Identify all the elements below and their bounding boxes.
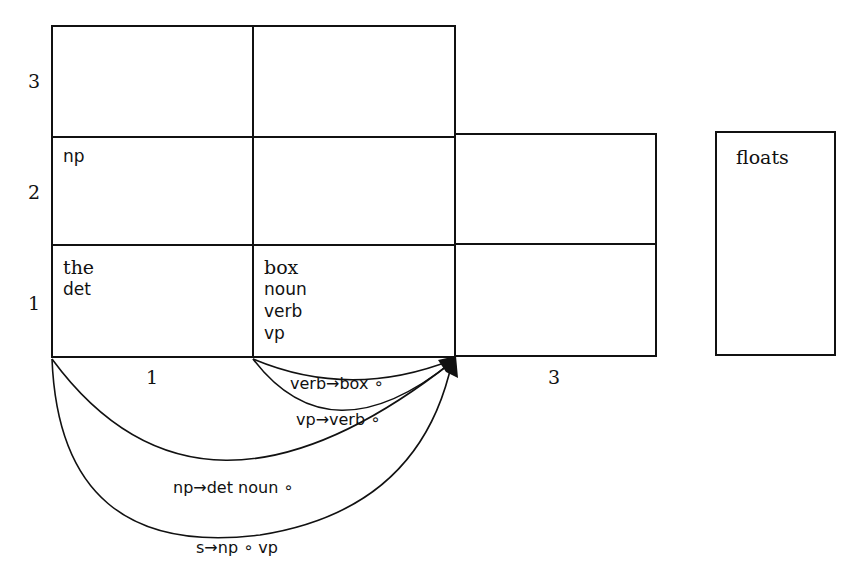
edge-arc-np-det-noun xyxy=(52,359,452,460)
cell-r1c1: the det xyxy=(63,256,94,300)
col-label-3: 3 xyxy=(548,366,560,388)
chart-diagram xyxy=(0,0,863,587)
category-det: det xyxy=(63,278,94,300)
edge-label-np-det-noun: np→det noun ∘ xyxy=(173,478,293,497)
category-verb: verb xyxy=(264,300,307,322)
col-label-1: 1 xyxy=(146,366,158,388)
cell-r1c2: box noun verb vp xyxy=(264,256,307,344)
edge-label-vp-verb: vp→verb ∘ xyxy=(296,410,380,429)
word-box: box xyxy=(264,256,307,278)
floats-label: floats xyxy=(736,146,789,168)
category-noun: noun xyxy=(264,278,307,300)
edge-label-verb-box: verb→box ∘ xyxy=(290,374,383,393)
row-label-1: 1 xyxy=(28,292,40,314)
row-label-2: 2 xyxy=(28,181,40,203)
arrowhead-icon xyxy=(438,356,458,378)
category-vp: vp xyxy=(264,322,307,344)
word-the: the xyxy=(63,256,94,278)
row-label-3: 3 xyxy=(28,70,40,92)
cell-r2c1: np xyxy=(63,145,85,167)
edge-label-s-np-vp: s→np ∘ vp xyxy=(196,538,278,557)
edge-arc-s-np-vp xyxy=(52,359,452,538)
category-np: np xyxy=(63,145,85,167)
